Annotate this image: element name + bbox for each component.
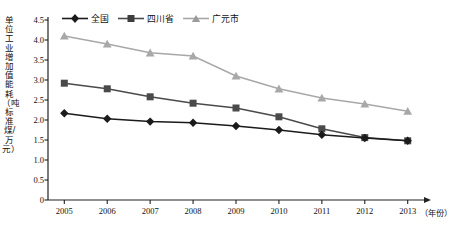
data-point-marker (275, 113, 282, 120)
data-point-marker (60, 32, 69, 40)
data-point-marker (61, 80, 68, 87)
data-point-marker (275, 126, 283, 134)
x-axis-tick-label: 2006 (90, 206, 124, 216)
x-axis-tick-label: 2010 (262, 206, 296, 216)
data-point-marker (103, 115, 111, 123)
y-axis-tick-label: 4.5 (16, 15, 44, 25)
y-axis-tick-label: 4.0 (16, 35, 44, 45)
data-point-marker (233, 105, 240, 112)
data-point-marker (147, 93, 154, 100)
data-point-marker (60, 109, 68, 117)
x-axis-tick-label: 2012 (348, 206, 382, 216)
y-axis-tick-label: 2.5 (16, 95, 44, 105)
x-axis-arrow-icon (424, 197, 431, 203)
data-point-marker (190, 100, 197, 107)
y-axis-tick-label: 3.5 (16, 55, 44, 65)
x-axis-tick-label: 2009 (219, 206, 253, 216)
y-axis-tick-label: 1.0 (16, 155, 44, 165)
x-axis-title: （年份） (420, 206, 452, 218)
data-point-marker (232, 72, 241, 80)
data-point-marker (104, 85, 111, 92)
x-axis-tick-label: 2008 (176, 206, 210, 216)
y-axis-tick-label: 0 (16, 195, 44, 205)
data-point-marker (146, 117, 154, 125)
y-axis-tick-label: 0.5 (16, 175, 44, 185)
x-axis-tick-label: 2005 (47, 206, 81, 216)
y-axis-tick-label: 2.0 (16, 115, 44, 125)
x-axis-tick-label: 2011 (305, 206, 339, 216)
x-axis-tick-label: 2007 (133, 206, 167, 216)
y-axis-tick-label: 1.5 (16, 135, 44, 145)
y-axis-tick-label: 3.0 (16, 75, 44, 85)
series-line-四川省 (64, 83, 407, 141)
data-point-marker (189, 119, 197, 127)
data-point-marker (232, 122, 240, 130)
